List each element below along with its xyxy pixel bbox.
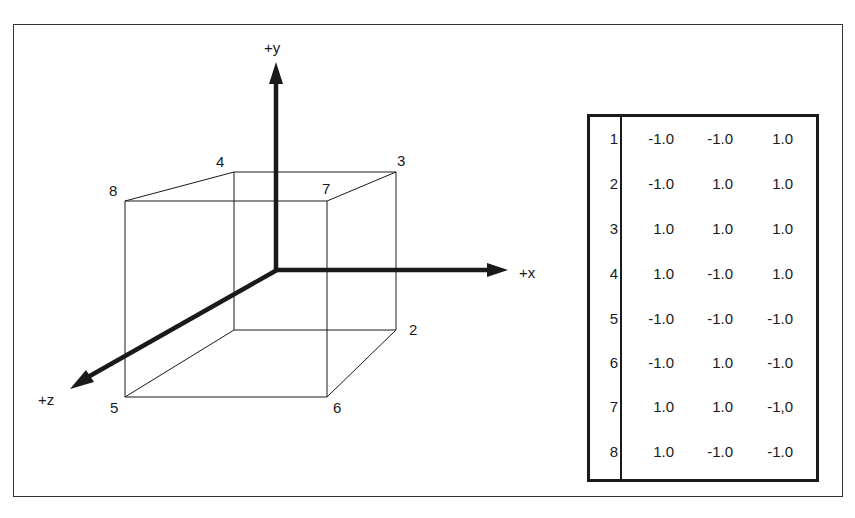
vertex-label-2: 2: [409, 322, 417, 337]
cell-x: -1.0: [626, 310, 674, 327]
vertex-label-5: 5: [110, 400, 118, 415]
table-row: 6 -1.0 1.0 -1.0: [590, 354, 816, 374]
row-index: 5: [590, 310, 618, 327]
cell-x: 1.0: [626, 265, 674, 282]
cell-x: -1.0: [626, 130, 674, 147]
vertex-label-8: 8: [109, 183, 117, 198]
cell-y: 1.0: [685, 175, 733, 192]
cell-y: -1.0: [685, 443, 733, 460]
cell-z: 1.0: [745, 220, 793, 237]
cell-y: 1.0: [685, 220, 733, 237]
table-row: 5 -1.0 -1.0 -1.0: [590, 310, 816, 330]
cell-z: -1,0: [745, 398, 793, 415]
cell-z: -1.0: [745, 310, 793, 327]
cell-x: 1.0: [626, 220, 674, 237]
table-row: 7 1.0 1.0 -1,0: [590, 398, 816, 418]
table-row: 3 1.0 1.0 1.0: [590, 220, 816, 240]
cell-y: 1.0: [685, 398, 733, 415]
table-row: 8 1.0 -1.0 -1.0: [590, 443, 816, 463]
cell-x: 1.0: [626, 443, 674, 460]
row-index: 6: [590, 354, 618, 371]
vertex-label-4: 4: [216, 154, 224, 169]
table-index-divider: [620, 114, 622, 482]
vertex-label-3: 3: [397, 153, 405, 168]
cell-z: 1.0: [745, 175, 793, 192]
cell-z: -1.0: [745, 443, 793, 460]
cell-z: -1.0: [745, 354, 793, 371]
cell-y: -1.0: [685, 310, 733, 327]
table-row: 2 -1.0 1.0 1.0: [590, 175, 816, 195]
row-index: 2: [590, 175, 618, 192]
row-index: 4: [590, 265, 618, 282]
row-index: 3: [590, 220, 618, 237]
cell-x: -1.0: [626, 354, 674, 371]
row-index: 1: [590, 130, 618, 147]
row-index: 7: [590, 398, 618, 415]
cell-x: -1.0: [626, 175, 674, 192]
vertex-label-7: 7: [322, 181, 330, 196]
y-axis-label: +y: [264, 40, 280, 55]
vertex-label-6: 6: [333, 400, 341, 415]
cell-z: 1.0: [745, 265, 793, 282]
x-axis-label: +x: [519, 265, 535, 280]
cell-y: -1.0: [685, 265, 733, 282]
table-row: 1 -1.0 -1.0 1.0: [590, 130, 816, 150]
table-row: 4 1.0 -1.0 1.0: [590, 265, 816, 285]
cell-y: 1.0: [685, 354, 733, 371]
z-axis-label: +z: [38, 392, 54, 407]
cell-y: -1.0: [685, 130, 733, 147]
row-index: 8: [590, 443, 618, 460]
cell-x: 1.0: [626, 398, 674, 415]
cell-z: 1.0: [745, 130, 793, 147]
